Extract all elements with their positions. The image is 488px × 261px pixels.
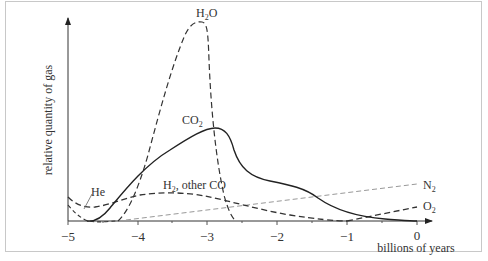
gas-history-chart: −5 −4 −3 −2 −1 0 billions of years relat…	[0, 0, 488, 261]
label-h2o: H2O	[196, 6, 218, 22]
label-co2: CO2	[182, 113, 203, 129]
x-tick-label: −2	[270, 229, 284, 244]
x-tick-label: −4	[131, 229, 145, 244]
x-tick-label: −3	[200, 229, 214, 244]
label-he: He	[91, 185, 105, 199]
x-tick-label: −1	[340, 229, 354, 244]
x-tick-label: −5	[61, 229, 75, 244]
x-ticks	[68, 221, 417, 225]
label-n2: N2	[423, 178, 436, 194]
label-o2: O2	[423, 199, 436, 215]
label-h2-other-co: H2, other CO	[163, 178, 226, 194]
x-axis-label: billions of years	[377, 241, 455, 255]
series-h2-other-co-line	[68, 193, 347, 221]
y-axis-label: relative quantity of gas	[41, 65, 55, 176]
